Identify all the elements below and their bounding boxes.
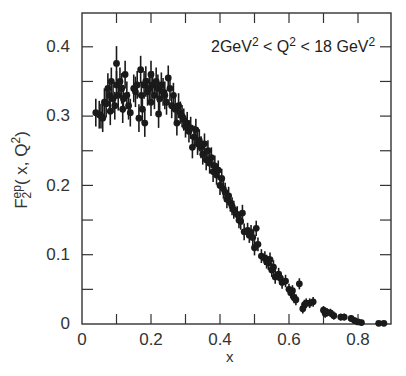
q2-range-annotation: 2GeV2 < Q2 < 18 GeV2 xyxy=(211,35,375,56)
y-tick-label: 0.2 xyxy=(30,177,70,194)
x-tick-label: 0.4 xyxy=(195,331,245,348)
y-tick-label: 0.1 xyxy=(30,246,70,263)
plot-frame xyxy=(82,13,391,324)
x-tick-label: 0.2 xyxy=(126,331,176,348)
y-axis-label: Fep2( x, Q2) xyxy=(9,115,33,225)
y-tick-label: 0 xyxy=(30,315,70,332)
y-tick-label: 0.4 xyxy=(30,38,70,55)
y-tick-label: 0.3 xyxy=(30,107,70,124)
x-tick-label: 0.8 xyxy=(333,331,383,348)
x-tick-label: 0 xyxy=(57,331,107,348)
data-points xyxy=(92,46,387,327)
x-tick-label: 0.6 xyxy=(264,331,314,348)
axis-ticks xyxy=(82,13,391,324)
x-axis-label: x xyxy=(226,348,234,365)
